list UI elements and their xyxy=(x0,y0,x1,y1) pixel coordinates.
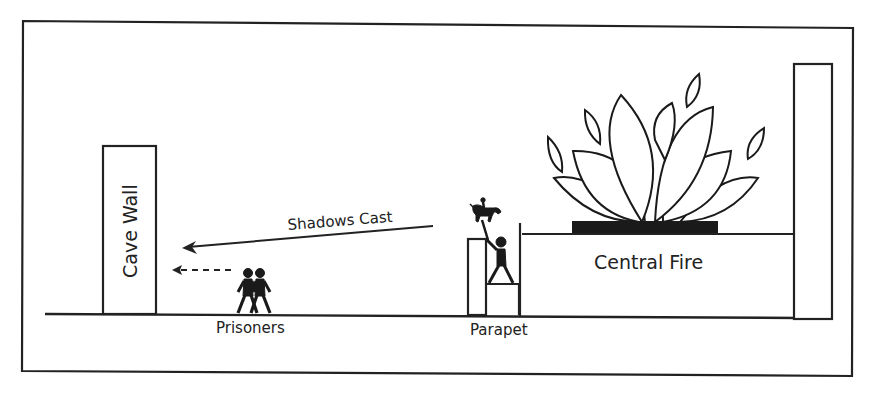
horse-figurine-icon xyxy=(470,198,501,222)
gaze-arrow xyxy=(172,265,231,275)
diagram-canvas: Cave Wall Shadows Cast Prisoners xyxy=(0,0,877,398)
ground-line xyxy=(45,314,800,318)
prisoner-figure xyxy=(251,269,270,314)
flame-drop xyxy=(585,110,600,144)
parapet-label: Parapet xyxy=(470,321,528,339)
arrowhead-icon xyxy=(182,241,197,254)
flame-drop xyxy=(748,128,764,159)
cave-wall-label: Cave Wall xyxy=(119,184,141,278)
flame-drop xyxy=(686,74,700,107)
dashed-arrowhead-icon xyxy=(172,265,182,275)
central-fire-label: Central Fire xyxy=(594,251,703,273)
fire-bed xyxy=(572,221,718,233)
back-wall xyxy=(794,64,832,319)
shadow-arrow: Shadows Cast xyxy=(182,208,433,254)
fire-flames xyxy=(548,74,764,223)
prisoners-label: Prisoners xyxy=(216,319,285,337)
cave-diagram: Cave Wall Shadows Cast Prisoners xyxy=(0,0,877,398)
flame-drop xyxy=(548,137,562,172)
cave-wall: Cave Wall xyxy=(103,146,156,314)
parapet xyxy=(468,223,520,316)
prisoners xyxy=(238,269,270,314)
